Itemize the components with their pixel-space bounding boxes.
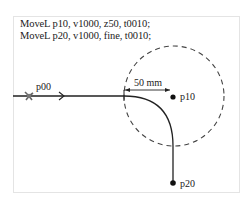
zone-size-label: 50 mm [134,77,162,88]
robot-path-diagram: 50 mm p00 p10 p20 [0,0,250,204]
point-label-p10: p10 [180,91,195,102]
point-p10-dot [170,94,175,99]
tool-path [13,96,173,183]
point-label-p20: p20 [180,178,195,189]
dimension-arrow [125,88,170,92]
point-p20-dot [170,180,176,186]
point-label-p00: p00 [36,81,51,92]
